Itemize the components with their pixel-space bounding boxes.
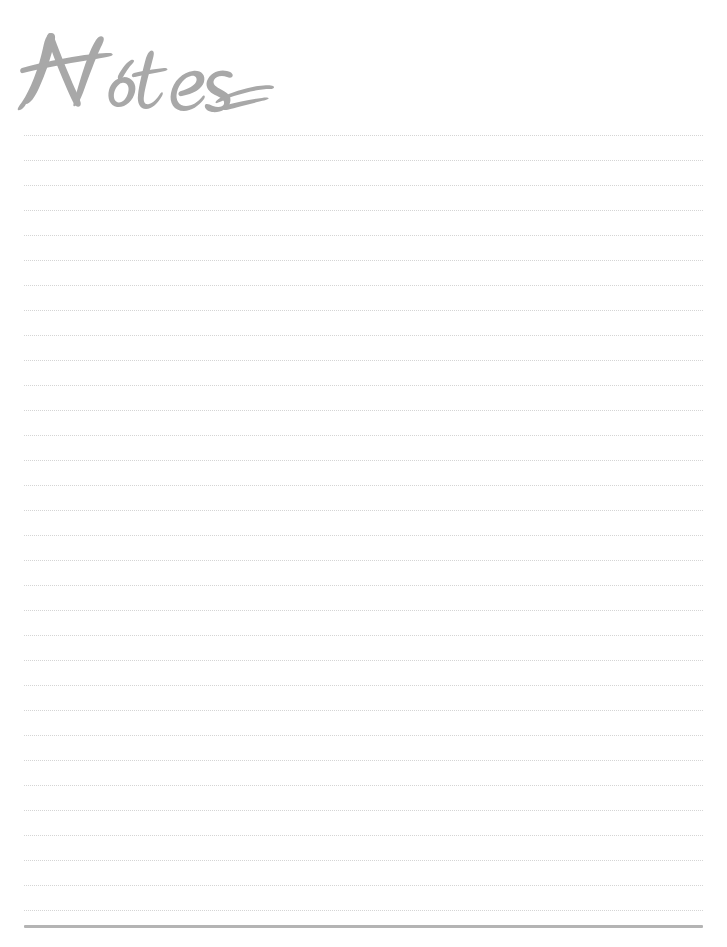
ruled-line — [24, 335, 703, 336]
ruled-line — [24, 810, 703, 811]
ruled-line — [24, 460, 703, 461]
ruled-line — [24, 910, 703, 911]
ruled-line — [24, 860, 703, 861]
ruled-line — [24, 510, 703, 511]
ruled-line — [24, 410, 703, 411]
ruled-line — [24, 560, 703, 561]
ruled-line — [24, 710, 703, 711]
ruled-line — [24, 635, 703, 636]
ruled-line — [24, 435, 703, 436]
ruled-line — [24, 735, 703, 736]
ruled-line — [24, 135, 703, 136]
ruled-line — [24, 835, 703, 836]
bottom-rule-bar — [24, 925, 703, 928]
ruled-line — [24, 285, 703, 286]
ruled-line — [24, 585, 703, 586]
ruled-lines-group — [0, 0, 727, 947]
ruled-line — [24, 685, 703, 686]
notes-page: Notes — [0, 0, 727, 947]
ruled-line — [24, 760, 703, 761]
ruled-line — [24, 310, 703, 311]
ruled-line — [24, 260, 703, 261]
ruled-line — [24, 885, 703, 886]
ruled-line — [24, 660, 703, 661]
ruled-line — [24, 210, 703, 211]
ruled-line — [24, 160, 703, 161]
ruled-line — [24, 235, 703, 236]
ruled-line — [24, 485, 703, 486]
ruled-line — [24, 185, 703, 186]
ruled-line — [24, 535, 703, 536]
ruled-line — [24, 785, 703, 786]
ruled-line — [24, 385, 703, 386]
ruled-line — [24, 610, 703, 611]
ruled-line — [24, 360, 703, 361]
